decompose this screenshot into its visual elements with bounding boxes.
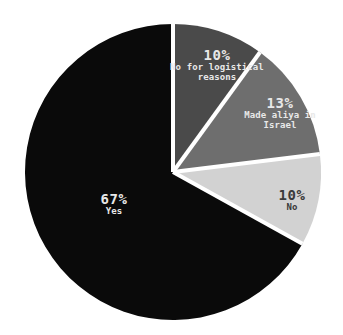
pie-chart-canvas bbox=[0, 0, 343, 335]
pie-chart: 10% No for logistical reasons 13% Made a… bbox=[0, 0, 343, 335]
